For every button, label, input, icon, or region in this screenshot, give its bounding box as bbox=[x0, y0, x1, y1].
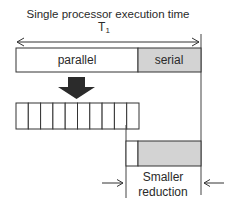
down-arrow-icon bbox=[58, 77, 95, 99]
amdahl-diagram: Single processor execution time T1 paral… bbox=[0, 0, 237, 209]
reduced-serial-segment bbox=[138, 141, 201, 166]
diagram-title: Single processor execution time bbox=[27, 8, 190, 20]
reduced-parallel-segment bbox=[126, 141, 138, 166]
t-subscript: 1 bbox=[105, 26, 110, 35]
reduction-label: reduction bbox=[138, 185, 187, 199]
single-processor-bar: parallel serial bbox=[16, 48, 201, 72]
execution-time-span-arrow bbox=[17, 38, 199, 46]
parallel-cells-grid bbox=[16, 103, 139, 129]
t1-label: T1 bbox=[98, 20, 110, 35]
parallel-label: parallel bbox=[58, 53, 97, 67]
parallel-processor-bar bbox=[126, 141, 201, 166]
serial-label: serial bbox=[155, 53, 184, 67]
smaller-label: Smaller bbox=[143, 170, 184, 184]
